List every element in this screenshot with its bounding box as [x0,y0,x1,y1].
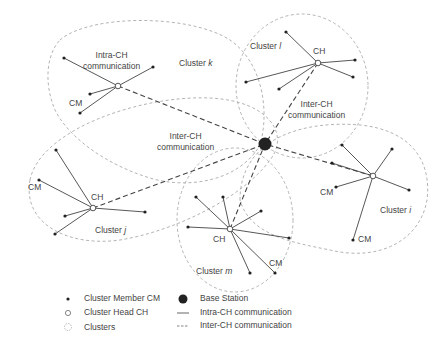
intra-ch-link [230,229,289,238]
cluster-j-label: Cluster j [95,225,126,236]
legend-cluster-head: Cluster Head CH [84,307,148,317]
cluster-member-node [340,143,343,146]
legend-head-icon [65,310,70,315]
intra-ch-link [56,150,93,208]
intra-ch-link [90,86,118,94]
intra-ch-link [80,86,118,113]
cluster-head-node-j [90,205,96,211]
intra-ch-link [93,208,145,212]
intra-ch-link [65,208,93,216]
cluster-member-node [88,92,91,95]
cluster-member-node [390,147,393,150]
intra-ch-label-line2: communication [83,61,140,72]
inter-ch-links [93,63,373,229]
cluster-member-node [273,271,276,274]
intra-ch-link [188,227,230,229]
cm-label-j: CM [28,182,41,193]
cluster-member-node [54,148,57,151]
cluster-k-label: Cluster k [179,58,213,69]
cluster-member-node [151,65,154,68]
intra-ch-link [336,176,373,187]
cluster-member-node [284,30,287,33]
cm-label-i-left: CM [320,187,333,198]
intra-ch-label: Intra-CH communication [83,50,140,71]
cluster-l-outline [236,14,368,158]
cluster-member-node [221,195,224,198]
inter-ch-label-center: Inter-CH communication [157,131,214,152]
intra-ch-link [353,176,373,240]
cluster-j-outline [29,98,277,241]
cluster-m-label: Cluster m [196,266,232,277]
cluster-i-label: Cluster i [380,205,411,216]
legend-clusters: Clusters [84,322,115,332]
cluster-member-node [353,58,356,61]
cluster-head-node-l [315,60,321,66]
cluster-member-node [186,225,189,228]
inter-ch-link-j [93,144,265,208]
cluster-l-label: Cluster l [250,41,281,52]
cluster-member-node [351,75,354,78]
intra-ch-link [279,63,318,89]
intra-ch-link [196,197,230,229]
cluster-member-node [407,188,410,191]
cluster-member-node [277,87,280,90]
cluster-member-node [259,209,262,212]
base-station-icon [259,138,272,151]
cluster-member-node [244,80,247,83]
inter-ch-center-line1: Inter-CH [157,131,214,142]
cluster-head-node-k [115,83,121,89]
inter-ch-label-right: Inter-CH communication [288,99,345,120]
cluster-member-node [143,210,146,213]
ch-label-m: CH [213,234,225,245]
cluster-m-outline [177,148,293,292]
inter-ch-center-line2: communication [157,142,214,153]
cluster-member-node [78,111,81,114]
inter-ch-right-line1: Inter-CH [288,99,345,110]
cluster-member-node [334,185,337,188]
cluster-member-node [248,271,251,274]
cm-label-i-bottom: CM [358,234,371,245]
intra-ch-link [373,176,409,190]
cluster-member-node [351,238,354,241]
intra-ch-link [39,180,93,208]
cluster-member-node [194,195,197,198]
cluster-member-node [63,214,66,217]
intra-ch-link [223,197,230,229]
intra-ch-link [318,60,355,63]
legend-cluster-icon [65,324,72,331]
intra-ch-link [373,149,392,176]
cluster-heads [90,60,376,232]
legend-member-icon [66,297,69,300]
cluster-member-node [330,161,333,164]
cluster-member-node [62,56,65,59]
ch-label-j: CH [91,192,103,203]
cm-label-k: CM [69,98,82,109]
legend-base-station: Base Station [200,293,248,303]
cm-label-m: CM [269,258,282,269]
intra-ch-link [318,63,353,77]
intra-ch-link [230,211,261,229]
legend-intra-ch: Intra-CH communication [200,307,292,317]
intra-ch-link [55,208,93,234]
cluster-member-node [53,232,56,235]
intra-ch-link [230,229,250,273]
legend-cluster-member: Cluster Member CM [84,293,160,303]
network-diagram: Intra-CH communication Cluster k CM Clus… [0,0,440,348]
cluster-member-node [287,236,290,239]
intra-ch-label-line1: Intra-CH [83,50,140,61]
inter-ch-right-line2: communication [288,110,345,121]
cluster-head-node-m [227,226,233,232]
legend-inter-ch: Inter-CH communication [200,320,292,330]
cluster-head-node-i [370,173,376,179]
legend-base-station-icon [179,295,188,304]
inter-ch-link-m [230,144,265,229]
ch-label-l: CH [313,46,325,57]
